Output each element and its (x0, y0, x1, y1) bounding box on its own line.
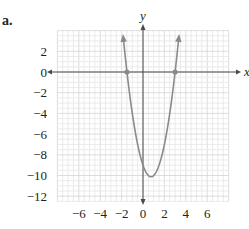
x-tick-label: −2 (115, 206, 129, 221)
x-tick-label: −4 (93, 206, 107, 221)
parabola-chart: −6−4−2024620−2−4−6−8−10−12 x y (0, 0, 249, 229)
x-tick-label: 6 (204, 206, 211, 221)
tick-labels: −6−4−2024620−2−4−6−8−10−12 (27, 44, 211, 221)
y-tick-label: −4 (33, 106, 47, 121)
x-tick-label: 0 (140, 206, 147, 221)
y-tick-label: −10 (27, 168, 47, 183)
parabola-path (123, 37, 179, 177)
parabola-curve (121, 34, 182, 177)
y-tick-label: −2 (33, 85, 47, 100)
x-tick-label: 2 (161, 206, 168, 221)
y-axis-arrow-down-icon (141, 199, 146, 205)
x-tick-label: −6 (72, 206, 86, 221)
x-tick-label: 4 (183, 206, 190, 221)
y-axis-arrow-up-icon (141, 24, 146, 30)
y-tick-label: −8 (33, 147, 47, 162)
y-tick-label: −12 (27, 189, 47, 204)
x-axis-arrow-left-icon (47, 70, 52, 75)
x-intercept-point (124, 69, 129, 74)
y-axis-label: y (138, 8, 146, 23)
y-tick-label: 0 (41, 65, 48, 80)
y-tick-label: 2 (41, 44, 48, 59)
x-axis-label: x (243, 64, 249, 79)
x-axis-arrow-right-icon (236, 70, 241, 75)
x-intercept-point (173, 69, 178, 74)
y-tick-label: −6 (33, 127, 47, 142)
